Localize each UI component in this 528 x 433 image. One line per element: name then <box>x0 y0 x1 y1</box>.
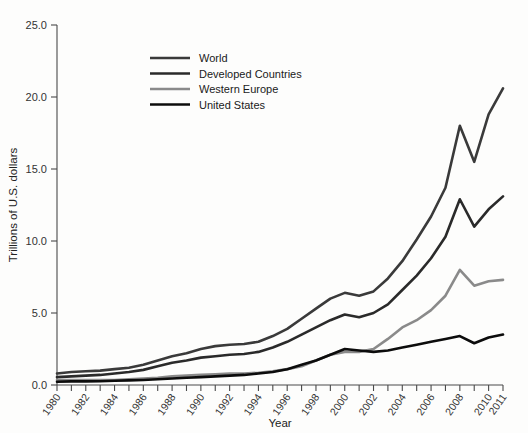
x-tick-label: 1980 <box>39 391 62 417</box>
x-tick-label: 1982 <box>68 391 91 417</box>
x-tick-label: 1990 <box>183 391 206 417</box>
y-tick-label: 15.0 <box>26 163 47 175</box>
legend-label-world: World <box>199 52 228 64</box>
x-tick-label: 1988 <box>155 391 178 417</box>
chart-figure: 0.05.010.015.020.025.0 19801982198419861… <box>0 0 528 433</box>
series-line-united-states <box>57 335 503 382</box>
x-tick-label: 1994 <box>241 391 264 417</box>
x-tick-label: 1986 <box>126 391 149 417</box>
x-tick-label: 1984 <box>97 391 120 417</box>
y-tick-label: 5.0 <box>32 307 47 319</box>
x-axis-title: Year <box>268 417 291 429</box>
y-tick-label: 0.0 <box>32 379 47 391</box>
legend-label-united-states: United States <box>199 99 266 111</box>
series-line-developed-countries <box>57 196 503 377</box>
series-lines <box>57 88 503 381</box>
x-tick-label: 2004 <box>385 391 408 417</box>
x-tick-label: 1992 <box>212 391 235 417</box>
series-line-western-europe <box>57 270 503 380</box>
legend-label-developed-countries: Developed Countries <box>199 68 302 80</box>
x-tick-label: 2006 <box>413 391 436 417</box>
x-axis-ticks: 1980198219841986198819901992199419961998… <box>39 385 508 417</box>
x-tick-label: 1996 <box>270 391 293 417</box>
x-tick-label: 2008 <box>442 391 465 417</box>
series-line-world <box>57 88 503 373</box>
y-axis-title: Trillions of U.S. dollars <box>7 147 19 262</box>
x-tick-label: 2000 <box>327 391 350 417</box>
y-tick-label: 25.0 <box>26 19 47 31</box>
chart-legend: WorldDeveloped CountriesWestern EuropeUn… <box>150 52 302 111</box>
y-tick-label: 20.0 <box>26 91 47 103</box>
y-axis-ticks: 0.05.010.015.020.025.0 <box>26 19 57 391</box>
legend-label-western-europe: Western Europe <box>199 83 278 95</box>
x-tick-label: 1998 <box>298 391 321 417</box>
y-tick-label: 10.0 <box>26 235 47 247</box>
x-tick-label: 2002 <box>356 391 379 417</box>
line-chart: 0.05.010.015.020.025.0 19801982198419861… <box>0 0 528 433</box>
